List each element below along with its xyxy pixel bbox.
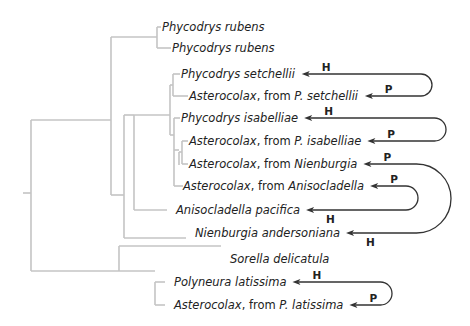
taxon-label: Sorella delicatula (230, 252, 329, 266)
taxon-label: Polyneura latissima (174, 275, 286, 289)
taxon-name-italic: Phycodrys rubens (172, 41, 275, 55)
taxon-name-italic: P. setchellii (294, 89, 359, 103)
taxon-label: Phycodrys rubens (162, 20, 265, 34)
taxon-name-plain: , from (251, 179, 289, 193)
taxon-name-italic: P. isabelliae (294, 134, 361, 148)
taxon-label: Asterocolax, from P. latissima (173, 298, 343, 312)
taxon-name-italic: Asterocolax (188, 134, 257, 148)
taxon-name-italic: Asterocolax (188, 157, 257, 171)
host-tag: H (324, 105, 333, 117)
taxon-name-italic: P. latissima (279, 298, 343, 312)
parasite-tag: P (385, 83, 393, 95)
taxon-label: Anisocladella pacifica (175, 203, 300, 217)
taxon-label: Phycodrys isabelliae (181, 111, 298, 125)
taxon-name-italic: Anisocladella pacifica (175, 203, 300, 217)
parasite-tag: P (383, 151, 391, 163)
taxon-labels: Phycodrys rubensPhycodrys rubensPhycodry… (162, 20, 364, 312)
taxon-name-plain: , from (242, 298, 280, 312)
parasite-tag: P (390, 173, 398, 185)
taxon-name-plain: , from (257, 157, 295, 171)
taxon-label: Phycodrys setchellii (181, 67, 296, 81)
taxon-name-italic: Phycodrys isabelliae (181, 111, 298, 125)
host-tag: H (312, 269, 321, 281)
taxon-label: Phycodrys rubens (172, 41, 275, 55)
taxon-label: Asterocolax, from Anisocladella (182, 179, 364, 193)
host-tag: H (322, 61, 331, 73)
taxon-label: Asterocolax, from Nienburgia (188, 157, 357, 171)
taxon-name-italic: Polyneura latissima (174, 275, 286, 289)
host-tag: H (366, 236, 375, 248)
taxon-name-plain: , from (257, 89, 295, 103)
taxon-name-italic: Phycodrys setchellii (181, 67, 296, 81)
taxon-name-italic: Nienburgia andersoniana (195, 226, 340, 240)
taxon-name-italic: Phycodrys rubens (162, 20, 265, 34)
host-parasite-link (352, 164, 451, 233)
taxon-name-italic: Asterocolax (173, 298, 242, 312)
host-tag: H (326, 213, 335, 225)
taxon-name-italic: Nienburgia (294, 157, 357, 171)
parasite-tag: P (387, 128, 395, 140)
taxon-label: Nienburgia andersoniana (195, 226, 340, 240)
taxon-name-plain: , from (257, 134, 295, 148)
phylogenetic-tree: Phycodrys rubensPhycodrys rubensPhycodry… (0, 0, 470, 326)
taxon-label: Asterocolax, from P. setchellii (188, 89, 359, 103)
taxon-name-italic: Sorella delicatula (230, 252, 329, 266)
taxon-name-italic: Anisocladella (287, 179, 364, 193)
parasite-tag: P (369, 292, 377, 304)
taxon-name-italic: Asterocolax (188, 89, 257, 103)
taxon-name-italic: Asterocolax (182, 179, 251, 193)
taxon-label: Asterocolax, from P. isabelliae (188, 134, 361, 148)
